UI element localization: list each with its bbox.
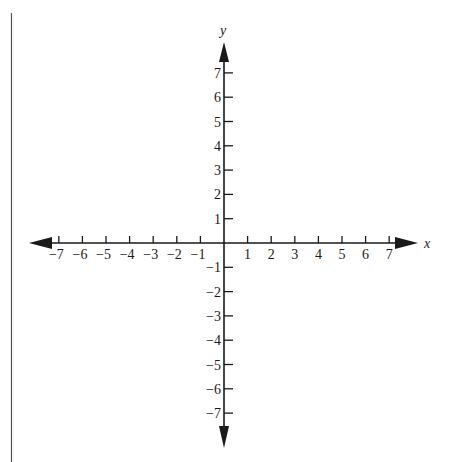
x-tick-label: −7 xyxy=(49,247,64,262)
y-tick-label: −6 xyxy=(206,382,221,397)
x-tick-label: 3 xyxy=(291,247,298,262)
x-tick-label: −3 xyxy=(143,247,158,262)
x-tick-label: −1 xyxy=(190,247,205,262)
y-tick-label: 3 xyxy=(214,163,221,178)
y-axis-down-arrow-icon xyxy=(219,426,229,448)
y-tick-label: −2 xyxy=(206,285,221,300)
x-tick-label: 6 xyxy=(362,247,369,262)
coordinate-plane: −7−6−5−4−3−2−11234567 x 7654321−1−2−3−4−… xyxy=(0,0,454,462)
y-tick-label: 2 xyxy=(214,187,221,202)
x-axis-label: x xyxy=(423,236,431,251)
x-tick-label: 5 xyxy=(339,247,346,262)
x-tick-label: 1 xyxy=(244,247,251,262)
y-tick-label: 5 xyxy=(214,115,221,130)
x-tick-label: 4 xyxy=(315,247,322,262)
y-axis: 7654321−1−2−3−4−5−6−7 y xyxy=(206,23,233,448)
y-axis-up-arrow-icon xyxy=(219,42,229,62)
x-tick-label: 7 xyxy=(386,247,393,262)
y-axis-label: y xyxy=(218,23,227,38)
y-tick-label: −7 xyxy=(206,406,221,421)
y-tick-label: 1 xyxy=(214,212,221,227)
x-tick-label: −2 xyxy=(167,247,182,262)
y-tick-label: 4 xyxy=(214,139,221,154)
x-axis-right-arrow-icon xyxy=(395,237,418,249)
x-tick-label: −4 xyxy=(120,247,135,262)
y-tick-label: −3 xyxy=(206,309,221,324)
x-tick-label: −5 xyxy=(96,247,111,262)
x-tick-label: −6 xyxy=(72,247,87,262)
y-tick-label: 6 xyxy=(214,90,221,105)
x-tick-label: 2 xyxy=(268,247,275,262)
y-tick-label: −5 xyxy=(206,358,221,373)
y-tick-label: 7 xyxy=(214,66,221,81)
y-tick-label: −1 xyxy=(206,260,221,275)
y-tick-label: −4 xyxy=(206,333,221,348)
x-axis: −7−6−5−4−3−2−11234567 x xyxy=(29,236,431,262)
